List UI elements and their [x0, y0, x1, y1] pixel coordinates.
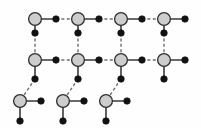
major-node[interactable]	[57, 95, 70, 108]
minor-node[interactable]	[182, 16, 189, 23]
major-node[interactable]	[115, 13, 128, 26]
minor-node[interactable]	[17, 118, 24, 125]
lattice-diagram	[0, 0, 201, 128]
minor-node[interactable]	[103, 118, 110, 125]
minor-node[interactable]	[81, 98, 88, 105]
minor-node[interactable]	[38, 98, 45, 105]
minor-node[interactable]	[53, 57, 60, 64]
major-node[interactable]	[29, 13, 42, 26]
minor-node[interactable]	[161, 76, 168, 83]
major-node[interactable]	[29, 54, 42, 67]
major-node[interactable]	[115, 54, 128, 67]
minor-node[interactable]	[96, 57, 103, 64]
major-node[interactable]	[158, 54, 171, 67]
minor-node[interactable]	[96, 16, 103, 23]
major-node[interactable]	[100, 95, 113, 108]
minor-node[interactable]	[75, 76, 82, 83]
minor-node[interactable]	[32, 76, 39, 83]
minor-node[interactable]	[139, 57, 146, 64]
lattice-canvas	[0, 0, 201, 128]
major-node[interactable]	[72, 54, 85, 67]
minor-node[interactable]	[161, 30, 168, 37]
minor-node[interactable]	[118, 30, 125, 37]
minor-node[interactable]	[60, 118, 67, 125]
minor-node[interactable]	[118, 76, 125, 83]
major-node[interactable]	[158, 13, 171, 26]
minor-node[interactable]	[139, 16, 146, 23]
major-node[interactable]	[72, 13, 85, 26]
minor-node[interactable]	[124, 98, 131, 105]
minor-node[interactable]	[75, 30, 82, 37]
minor-node[interactable]	[32, 30, 39, 37]
major-node[interactable]	[14, 95, 27, 108]
minor-node[interactable]	[53, 16, 60, 23]
minor-node[interactable]	[182, 57, 189, 64]
